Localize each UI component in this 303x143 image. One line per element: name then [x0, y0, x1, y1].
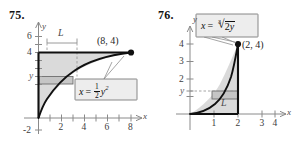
callout-leader-76: [204, 37, 236, 45]
x-tick-4-75: 4: [82, 123, 87, 133]
equation-75-fraction: 1 2: [94, 83, 100, 99]
equation-76-lhs: x: [201, 21, 205, 31]
textbook-exercise-figures: 75.: [0, 0, 303, 143]
x-tick-2-76: 2: [236, 119, 241, 129]
x-axis-label-75: x: [143, 112, 147, 121]
point-label-76: (2, 4): [242, 40, 264, 50]
y-axis-label-75: y: [42, 22, 46, 31]
y-tick-4-76: 4: [179, 40, 184, 50]
equation-75-lhs: x: [79, 87, 83, 97]
y-tick-3-76: 3: [179, 57, 184, 67]
x-tick-6-75: 6: [105, 123, 110, 133]
equation-76-radicand: 2y: [225, 21, 235, 32]
equation-76: x = 3 √ 2y: [201, 20, 235, 31]
y-tick-4-75: 4: [27, 48, 32, 58]
y-variable-label-76: y: [180, 87, 184, 97]
y-tick-6-75: 6: [27, 32, 32, 42]
x-tick-4-76: 4: [273, 119, 278, 129]
x-tick-3-76: 3: [260, 119, 265, 129]
equation-75-numerator: 1: [94, 83, 100, 91]
y-axis-label-76: y: [193, 15, 197, 24]
figure-76: 76.: [152, 0, 303, 143]
length-label-75: L: [58, 28, 64, 38]
length-label-76: L: [221, 98, 227, 108]
x-tick-8-75: 8: [128, 123, 133, 133]
equation-75: x = 1 2 y 2: [79, 84, 109, 100]
equation-76-root-index: 3: [218, 19, 221, 25]
y-tick-neg2-75: -2: [23, 126, 31, 136]
representative-rectangle-75: [39, 77, 73, 85]
marked-point-75: [128, 49, 134, 55]
equation-76-variable: y: [230, 21, 234, 32]
x-tick-1-76: 1: [212, 119, 217, 129]
y-tick-2-76: 2: [179, 75, 184, 85]
x-tick-2-75: 2: [59, 123, 64, 133]
callout-leader-75: [104, 56, 124, 79]
x-axis-label-76: x: [287, 108, 291, 117]
marked-point-76: [235, 41, 241, 47]
equation-76-radical: 3 √ 2y: [216, 20, 235, 31]
equation-75-relation: =: [85, 87, 91, 97]
equation-75-denominator: 2: [94, 91, 100, 100]
y-variable-label-75: y: [29, 72, 33, 82]
equation-76-relation: =: [207, 21, 213, 31]
point-label-75: (8, 4): [97, 36, 119, 46]
figure-75: 75.: [0, 0, 152, 143]
equation-75-exponent: 2: [105, 85, 108, 92]
